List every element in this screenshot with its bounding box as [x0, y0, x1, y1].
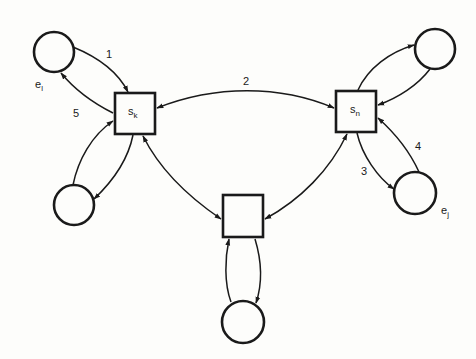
state-node-sn: sn	[336, 91, 376, 132]
edge-5-sk-to-el	[61, 73, 113, 113]
edge-sk-mid	[143, 136, 221, 219]
env-label-el: el	[35, 78, 43, 93]
env-node-bottom-left	[54, 185, 94, 225]
env-label-ej: ej	[441, 204, 449, 219]
edge-label-5: 5	[73, 107, 79, 119]
env-node-top-right	[415, 29, 455, 69]
edge-label-3: 3	[361, 165, 367, 177]
edge-sk-to-bl	[94, 135, 133, 199]
edge-label-4: 4	[415, 140, 421, 152]
edge-label-2: 2	[243, 75, 249, 87]
state-transition-diagram: sk sn el ej 1 2 3 4 5	[0, 0, 476, 359]
edge-3-sn-to-ej	[357, 133, 394, 189]
edge-4-ej-to-sn	[378, 118, 419, 172]
edge-sn-mid	[265, 134, 347, 219]
env-node-bottom	[222, 301, 264, 343]
edge-bl-to-sk	[73, 121, 113, 185]
edge-bot-to-mid	[226, 239, 231, 302]
state-node-middle	[223, 195, 263, 237]
edge-1-el-to-sk	[73, 47, 128, 92]
edge-2-sk-sn	[157, 91, 334, 108]
env-node-ej	[394, 172, 436, 214]
edge-sn-to-tr	[358, 45, 414, 90]
edge-tr-to-sn	[378, 69, 430, 105]
state-node-sk: sk	[115, 93, 155, 134]
edge-label-1: 1	[106, 48, 112, 60]
edge-mid-to-bot	[255, 239, 260, 303]
env-node-el	[34, 32, 74, 72]
